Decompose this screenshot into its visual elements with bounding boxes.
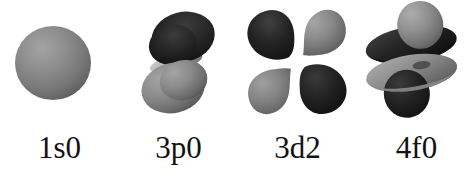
orbital-panel-3d2: 3d2 (238, 0, 357, 177)
orbital-4f-stacked-lobes-icon (357, 0, 476, 125)
orbital-label-3p0: 3p0 (119, 126, 238, 170)
orbital-label-4f0: 4f0 (357, 126, 476, 170)
orbital-panel-1s0: 1s0 (0, 0, 119, 177)
orbital-3d-cloverleaf-icon (238, 0, 357, 125)
orbital-panel-3p0: 3p0 (119, 0, 238, 177)
atomic-orbital-figure: 1s0 (0, 0, 476, 177)
orbital-panel-4f0: 4f0 (357, 0, 476, 177)
orbital-3p-dumbbell-icon (119, 0, 238, 125)
orbital-1s-sphere-icon (0, 0, 119, 125)
orbital-label-1s0: 1s0 (0, 126, 119, 170)
orbital-label-3d2: 3d2 (238, 126, 357, 170)
